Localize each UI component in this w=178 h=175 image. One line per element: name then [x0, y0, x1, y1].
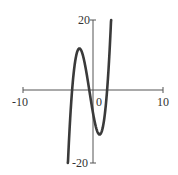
plot-area: -10 0 10 20 -20: [0, 0, 178, 175]
x-label-min: -10: [12, 95, 28, 109]
cubic-curve: [68, 20, 111, 163]
x-label-zero: 0: [96, 95, 102, 109]
chart: -10 0 10 20 -20: [0, 0, 178, 175]
x-label-max: 10: [157, 95, 169, 109]
y-label-min: -20: [72, 156, 88, 170]
y-label-max: 20: [78, 13, 90, 27]
